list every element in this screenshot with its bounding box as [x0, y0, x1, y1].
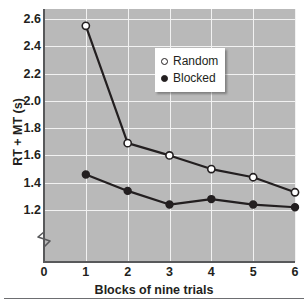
gridline-vertical	[295, 9, 296, 262]
x-tick-label: 4	[198, 266, 224, 279]
chart-legend: Random Blocked	[155, 48, 225, 92]
x-axis-line	[43, 261, 295, 263]
y-tick-label: 2.6	[1, 13, 41, 26]
legend-entry-random: Random	[161, 53, 218, 69]
bottom-divider	[4, 298, 304, 299]
y-tick-label: 2.4	[1, 40, 41, 53]
y-axis-title: RT + MT (s)	[11, 62, 25, 202]
x-tick-label: 1	[73, 266, 99, 279]
legend-label-blocked: Blocked	[173, 72, 216, 84]
legend-label-random: Random	[173, 55, 218, 67]
gridline-vertical	[86, 9, 87, 262]
x-tick-label: 0	[31, 266, 57, 279]
gridline-vertical	[128, 9, 129, 262]
chart-figure: 1.21.41.61.82.02.22.42.6 0123456 Random …	[0, 0, 308, 302]
filled-circle-icon	[161, 75, 168, 82]
x-axis-title: Blocks of nine trials	[0, 283, 308, 297]
y-tick-label: 1.2	[1, 204, 41, 217]
x-tick-label: 2	[115, 266, 141, 279]
legend-entry-blocked: Blocked	[161, 70, 216, 86]
gridline-vertical	[253, 9, 254, 262]
y-axis-line	[43, 9, 45, 262]
plot-area	[44, 9, 295, 262]
gridline-vertical	[211, 9, 212, 262]
x-tick-label: 5	[240, 266, 266, 279]
open-circle-icon	[161, 58, 168, 65]
gridline-vertical	[170, 9, 171, 262]
x-tick-label: 6	[282, 266, 308, 279]
x-tick-label: 3	[157, 266, 183, 279]
